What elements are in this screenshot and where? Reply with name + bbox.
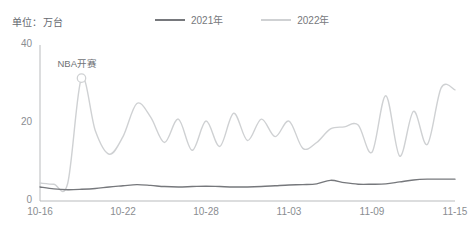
line-series-2021 [40,179,455,190]
annotation-marker-circle [77,74,85,82]
line-series-2022 [40,77,455,191]
